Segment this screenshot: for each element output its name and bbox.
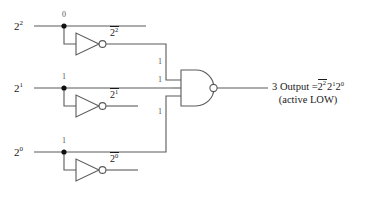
output-expression: 3 Output =222120 (active LOW)	[272, 79, 344, 106]
input-label-2pow1: 21	[14, 82, 23, 94]
inverter-bubble-2pow2	[99, 41, 106, 48]
inverted-label-2pow1: 21	[110, 88, 119, 101]
inverter-body-2pow2	[76, 33, 99, 55]
inverted-label-2pow0: 20	[110, 152, 119, 165]
wire-2pow0-to-nand	[148, 96, 181, 152]
tap-wire-2pow0	[64, 152, 76, 170]
node-value-2pow0: 1	[62, 137, 66, 145]
junction-dot-2pow1	[61, 85, 66, 90]
circuit-diagram: 22 21 20 0 1 1 1 1 1 22 21 20 3 Output =…	[0, 0, 368, 199]
output-word: Output	[280, 81, 309, 92]
wire-2pow2-bar-to-nand	[106, 44, 181, 80]
inverted-label-2pow2: 22	[110, 26, 119, 39]
inverter-body-2pow1	[76, 95, 99, 117]
output-note: (active LOW)	[272, 93, 344, 106]
inverter-bubble-2pow1	[99, 103, 106, 110]
tap-wire-2pow2	[64, 26, 76, 44]
wire-value-bottom: 1	[158, 108, 162, 116]
inverter-bubble-2pow0	[99, 167, 106, 174]
output-term-2: 21	[327, 81, 336, 92]
node-value-2pow1: 1	[62, 73, 66, 81]
nand-gate-body	[181, 70, 214, 106]
inverter-body-2pow0	[76, 159, 99, 181]
tap-wire-2pow1	[64, 88, 76, 106]
node-value-2pow2: 0	[62, 11, 66, 19]
input-label-2pow0: 20	[14, 146, 23, 158]
output-index: 3	[272, 81, 277, 92]
output-term-1: 22	[318, 79, 328, 92]
nand-gate-bubble	[210, 84, 217, 91]
wire-value-top: 1	[158, 58, 162, 66]
junction-dot-2pow0	[61, 149, 66, 154]
output-term-3: 20	[336, 81, 345, 92]
input-label-2pow2: 22	[14, 20, 23, 32]
wire-value-middle: 1	[158, 76, 162, 84]
junction-dot-2pow2	[61, 23, 66, 28]
